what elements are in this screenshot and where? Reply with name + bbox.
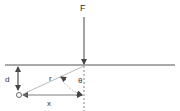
radius-label: r [49,74,52,83]
horizontal-label: x [47,99,51,108]
depth-label: d [5,75,9,84]
point-marker [17,93,22,98]
angle-arc-start [61,77,66,80]
force-label: F [80,3,86,13]
angle-label: θ [78,76,83,85]
radius-line [23,66,84,94]
boussinesq-diagram: F d x r θ [0,0,180,111]
